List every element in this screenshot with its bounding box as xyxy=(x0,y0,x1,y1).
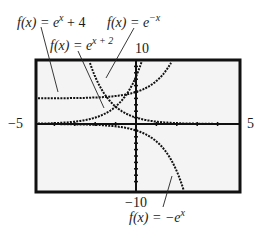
label-sup: x xyxy=(181,207,185,218)
ymin-tick-label: −10 xyxy=(125,196,147,210)
label-pre: f(x) = e xyxy=(107,15,149,30)
label-sup: x + 2 xyxy=(92,35,113,46)
label-ex-plus-4: f(x) = ex + 4 xyxy=(17,13,85,30)
xmax-tick-label: 5 xyxy=(247,117,254,131)
label-pre: f(x) = e xyxy=(17,15,59,30)
label-pre: f(x) = −e xyxy=(129,210,181,225)
label-pre: f(x) = e xyxy=(50,38,92,53)
label-post: + 4 xyxy=(64,15,86,30)
ymax-tick-label: 10 xyxy=(135,42,149,56)
label-e-x-plus-2: f(x) = ex + 2 xyxy=(50,36,113,53)
xmin-tick-label: −5 xyxy=(8,117,23,131)
label-neg-ex: f(x) = −ex xyxy=(129,208,185,225)
label-sup: −x xyxy=(149,12,160,23)
label-e-neg-x: f(x) = e−x xyxy=(107,13,160,30)
